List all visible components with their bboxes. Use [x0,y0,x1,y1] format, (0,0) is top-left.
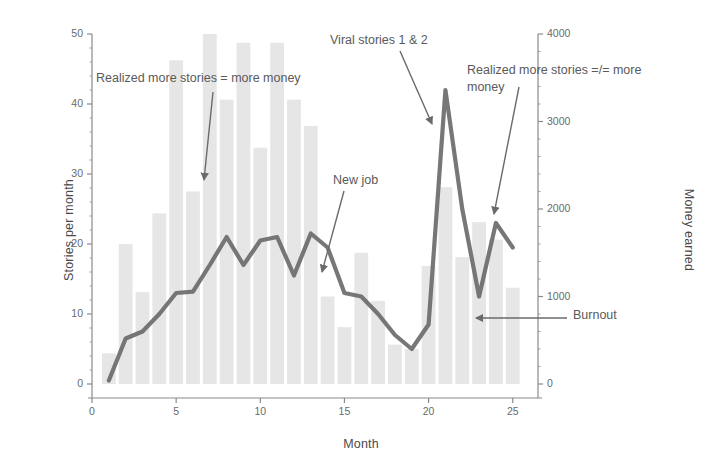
y-axis-right-title: Money earned [682,188,696,270]
bar [489,240,503,384]
y-tick-right-0: 0 [547,377,553,389]
bar [439,187,453,384]
bar [405,349,419,384]
bar [152,213,166,384]
y-tick-left-20: 20 [71,237,83,249]
bar [304,126,318,384]
y-tick-left-10: 10 [71,307,83,319]
y-tick-left-30: 30 [71,167,83,179]
bar [338,327,352,384]
bar [253,148,267,384]
y-tick-left-50: 50 [71,27,83,39]
bar [388,345,402,384]
bar [354,253,368,384]
y-axis-left-title: Stories per month [62,178,76,280]
x-tick-10: 10 [254,405,266,417]
x-tick-0: 0 [89,405,95,417]
bar [455,257,469,384]
bar [270,43,284,384]
bar [472,222,486,384]
x-tick-5: 5 [173,405,179,417]
bar [287,100,301,384]
x-axis-title: Month [0,437,722,451]
y-tick-left-0: 0 [77,377,83,389]
y-tick-left-40: 40 [71,97,83,109]
annotation-label-realized-not-more-money: Realized more stories =/= more money [467,62,641,96]
annotation-label-burnout: Burnout [573,307,617,324]
annotation-label-realized-more-money: Realized more stories = more money [96,70,301,87]
bar [169,60,183,384]
y-tick-right-2000: 2000 [547,202,570,214]
y-tick-right-3000: 3000 [547,115,570,127]
y-tick-right-1000: 1000 [547,290,570,302]
x-tick-20: 20 [423,405,435,417]
x-tick-25: 25 [507,405,519,417]
bar [321,297,335,385]
bar [119,244,133,384]
y-tick-right-4000: 4000 [547,27,570,39]
bar [506,288,520,384]
x-tick-15: 15 [339,405,351,417]
bar [136,292,150,384]
bar [237,43,251,384]
annotation-label-new-job: New job [333,172,378,189]
annotation-label-viral-stories: Viral stories 1 & 2 [330,32,428,49]
